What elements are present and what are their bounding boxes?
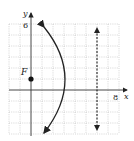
focus-point [28,76,33,81]
x-axis-label: x [124,92,129,101]
parabola-diagram: F y 6 8 x [0,0,134,141]
grid [9,24,119,134]
y-axis-label: y [22,9,28,18]
focus-label: F [20,67,28,77]
parabola [44,27,65,133]
parabola-curve [43,26,71,79]
x-tick-label: 8 [113,93,118,102]
y-tick-label: 6 [23,21,28,30]
